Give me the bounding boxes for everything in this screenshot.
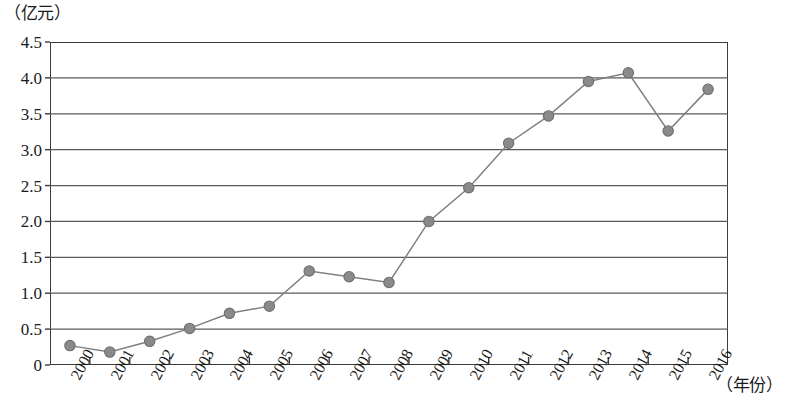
y-axis-unit-label: （亿元） xyxy=(4,4,70,24)
y-axis-tick-label: 3.0 xyxy=(0,142,42,159)
y-axis-tick-label: 4.0 xyxy=(0,70,42,87)
y-axis-tick-label: 1.0 xyxy=(0,285,42,302)
plot-area xyxy=(50,42,728,365)
y-axis-tick-label: 2.5 xyxy=(0,178,42,195)
y-axis-tick-label: 3.5 xyxy=(0,106,42,123)
line-chart: （亿元） 00.51.01.52.02.53.03.54.04.5 200020… xyxy=(0,0,790,420)
y-axis-tick-label: 0.5 xyxy=(0,321,42,338)
y-axis-tick-label: 2.0 xyxy=(0,213,42,230)
y-axis-tick-label: 1.5 xyxy=(0,249,42,266)
y-axis-tick-label: 4.5 xyxy=(0,34,42,51)
y-axis-tick-label: 0 xyxy=(0,357,42,374)
x-axis-unit-label: （年份） xyxy=(716,376,782,396)
